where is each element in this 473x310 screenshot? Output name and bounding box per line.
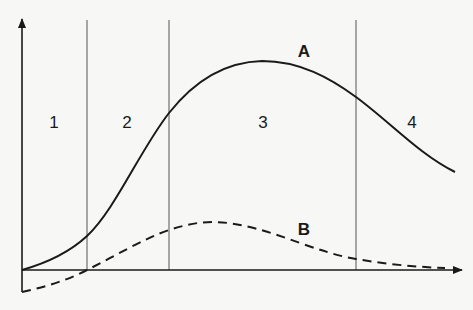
curve-label-b: B [298,220,310,239]
region-label-1: 1 [49,113,58,132]
curve-b [22,222,445,292]
region-label-2: 2 [122,113,131,132]
region-label-3: 3 [258,113,267,132]
region-label-4: 4 [407,113,416,132]
growth-phase-diagram: 1 2 3 4 A B [0,0,473,310]
curve-label-a: A [298,42,310,61]
